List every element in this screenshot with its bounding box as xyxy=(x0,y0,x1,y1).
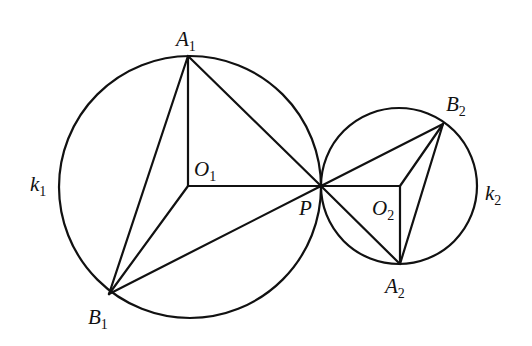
label-o1: O1 xyxy=(194,157,216,184)
label-a2: A2 xyxy=(383,274,405,301)
segment-p-a2 xyxy=(321,186,400,264)
label-p: P xyxy=(298,196,312,220)
segment-b1-p xyxy=(109,186,321,294)
geometry-diagram: A1 k1 O1 B1 P O2 A2 B2 k2 xyxy=(0,0,532,346)
point-p-marker xyxy=(319,184,323,188)
label-o2: O2 xyxy=(372,196,394,223)
label-a1: A1 xyxy=(174,27,196,54)
segment-p-b2 xyxy=(321,124,443,186)
label-k2: k2 xyxy=(485,181,501,208)
label-b1: B1 xyxy=(88,305,108,332)
label-b2: B2 xyxy=(446,92,466,119)
segment-o2-b2 xyxy=(400,124,443,186)
label-k1: k1 xyxy=(30,172,46,199)
segment-o1-b1 xyxy=(109,186,188,294)
segment-a1-b1 xyxy=(109,56,188,294)
segment-a2-b2 xyxy=(400,124,443,264)
